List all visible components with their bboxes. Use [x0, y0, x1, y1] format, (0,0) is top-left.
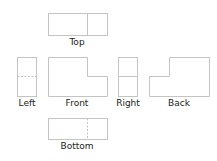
view-top: Top [49, 14, 108, 48]
view-left: Left [18, 58, 37, 109]
back-label: Back [168, 98, 191, 108]
view-bottom: Bottom [49, 119, 108, 152]
left-label: Left [19, 98, 36, 108]
right-label: Right [116, 98, 140, 108]
front-outline [49, 58, 108, 97]
top-outline [49, 14, 108, 36]
bottom-label: Bottom [60, 141, 93, 151]
front-label: Front [66, 98, 89, 108]
view-right: Right [116, 58, 140, 109]
bottom-outline [49, 119, 108, 140]
view-front: Front [49, 58, 108, 109]
orthographic-views-diagram: Top Left Front Right Back Bottom [0, 0, 217, 161]
left-outline [18, 58, 37, 97]
back-outline [150, 58, 210, 97]
top-label: Top [68, 37, 84, 47]
view-back: Back [150, 58, 210, 109]
